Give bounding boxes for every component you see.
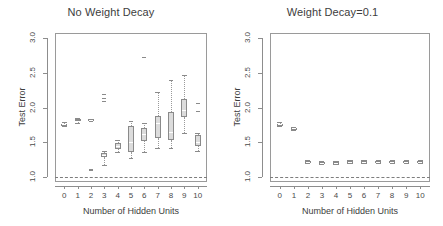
whisker-lower bbox=[104, 157, 105, 165]
whisker-upper bbox=[184, 75, 185, 99]
y-axis-tick-label: 1.5 bbox=[243, 131, 252, 153]
median-line bbox=[76, 121, 80, 122]
y-axis-title: Test Error bbox=[232, 77, 242, 137]
whisker-cap-lower bbox=[195, 151, 200, 152]
y-axis-line bbox=[47, 38, 48, 177]
x-axis-tick bbox=[308, 186, 309, 189]
whisker-cap-lower bbox=[89, 121, 94, 122]
whisker-cap-lower bbox=[182, 133, 187, 134]
x-axis-tick bbox=[392, 186, 393, 189]
whisker-lower bbox=[171, 140, 172, 148]
y-axis-tick-label: 2.5 bbox=[28, 61, 37, 83]
whisker-cap-upper bbox=[142, 123, 147, 124]
y-axis-tick bbox=[43, 142, 47, 143]
whisker-lower bbox=[158, 138, 159, 148]
median-line bbox=[390, 162, 394, 163]
outlier-point bbox=[102, 94, 106, 95]
reference-line bbox=[55, 177, 207, 178]
whisker-lower bbox=[144, 141, 145, 152]
x-axis-tick bbox=[104, 186, 105, 189]
y-axis-tick bbox=[43, 73, 47, 74]
whisker-upper bbox=[171, 80, 172, 113]
outlier-point bbox=[102, 98, 106, 99]
x-axis-tick bbox=[158, 186, 159, 189]
whisker-cap-lower bbox=[155, 148, 160, 149]
y-axis-tick-label: 2.5 bbox=[243, 61, 252, 83]
median-line bbox=[116, 146, 120, 147]
y-axis-tick bbox=[258, 73, 262, 74]
x-axis-tick bbox=[131, 186, 132, 189]
y-axis-tick bbox=[258, 177, 262, 178]
x-axis-title: Number of Hidden Units bbox=[250, 206, 443, 216]
median-line bbox=[196, 142, 200, 143]
whisker-cap-lower bbox=[404, 163, 409, 164]
median-line bbox=[102, 155, 106, 156]
outlier-point bbox=[89, 169, 93, 170]
box-iqr bbox=[155, 116, 161, 138]
x-axis-tick bbox=[364, 186, 365, 189]
x-axis-title: Number of Hidden Units bbox=[35, 206, 227, 216]
y-axis-tick bbox=[43, 38, 47, 39]
x-axis-tick bbox=[171, 186, 172, 189]
whisker-cap-upper bbox=[115, 140, 120, 141]
box-iqr bbox=[168, 112, 174, 140]
whisker-cap-lower bbox=[62, 126, 67, 127]
whisker-cap-lower bbox=[418, 163, 423, 164]
y-axis-tick-label: 1.0 bbox=[28, 166, 37, 188]
median-line bbox=[320, 163, 324, 164]
x-axis-tick bbox=[91, 186, 92, 189]
x-axis-tick bbox=[198, 186, 199, 189]
y-axis-tick-label: 3.0 bbox=[28, 26, 37, 48]
outlier-point bbox=[89, 170, 93, 171]
x-axis-tick bbox=[280, 186, 281, 189]
x-axis-tick-label: 10 bbox=[412, 191, 428, 200]
box-iqr bbox=[195, 135, 201, 146]
panel-no-weight-decay: No Weight Decay 1.01.52.02.53.0Test Erro… bbox=[0, 0, 222, 226]
x-axis-tick-label: 10 bbox=[190, 191, 206, 200]
outlier-point bbox=[142, 57, 146, 58]
whisker-cap-lower bbox=[305, 163, 310, 164]
y-axis-tick bbox=[43, 108, 47, 109]
figure-root: No Weight Decay 1.01.52.02.53.0Test Erro… bbox=[0, 0, 443, 226]
outlier-point bbox=[196, 111, 200, 112]
median-line bbox=[182, 110, 186, 111]
median-line bbox=[89, 120, 93, 121]
whisker-cap-lower bbox=[102, 165, 107, 166]
median-line bbox=[348, 162, 352, 163]
median-line bbox=[156, 123, 160, 124]
x-axis-tick bbox=[64, 186, 65, 189]
median-line bbox=[129, 142, 133, 143]
y-axis-tick-label: 1.5 bbox=[28, 131, 37, 153]
whisker-cap-lower bbox=[390, 163, 395, 164]
x-axis-tick bbox=[406, 186, 407, 189]
x-axis-tick bbox=[294, 186, 295, 189]
panel-title-right: Weight Decay=0.1 bbox=[222, 6, 443, 18]
x-axis-tick bbox=[78, 186, 79, 189]
y-axis-tick-label: 2.0 bbox=[243, 96, 252, 118]
outlier-point bbox=[102, 101, 106, 102]
whisker-cap-lower bbox=[376, 163, 381, 164]
y-axis-tick-label: 2.0 bbox=[28, 96, 37, 118]
whisker-cap-upper bbox=[129, 121, 134, 122]
y-axis-title: Test Error bbox=[17, 77, 27, 137]
whisker-cap-lower bbox=[277, 126, 282, 127]
whisker-cap-lower bbox=[142, 152, 147, 153]
whisker-cap-lower bbox=[129, 158, 134, 159]
box-iqr bbox=[181, 99, 187, 117]
median-line bbox=[62, 124, 66, 125]
median-line bbox=[418, 162, 422, 163]
box-iqr bbox=[128, 126, 134, 152]
y-axis-line bbox=[262, 38, 263, 177]
whisker-cap-lower bbox=[319, 164, 324, 165]
x-axis-tick bbox=[420, 186, 421, 189]
median-line bbox=[142, 134, 146, 135]
outlier-point bbox=[196, 103, 200, 104]
whisker-cap-lower bbox=[333, 164, 338, 165]
whisker-cap-lower bbox=[361, 163, 366, 164]
median-line bbox=[306, 162, 310, 163]
whisker-cap-upper bbox=[169, 80, 174, 81]
panel-title-left: No Weight Decay bbox=[0, 6, 222, 18]
median-line bbox=[278, 124, 282, 125]
y-axis-tick-label: 3.0 bbox=[243, 26, 252, 48]
y-axis-tick bbox=[43, 177, 47, 178]
